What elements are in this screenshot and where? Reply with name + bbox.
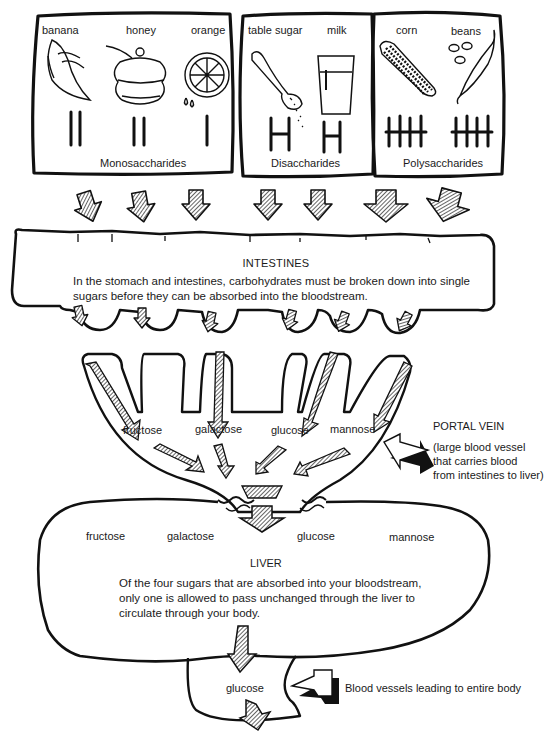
food-label-orange: orange [191, 24, 225, 37]
arrows-into-intestines [70, 185, 473, 227]
monosaccharides-box [33, 13, 233, 174]
liver-text-line-1: Of the four sugars that are absorbed int… [119, 576, 421, 591]
group-label-disaccharides: Disaccharides [271, 157, 340, 170]
liver-sugar-glucose: glucose [297, 530, 335, 543]
tally-marks [71, 112, 207, 145]
corn-icon [380, 41, 436, 96]
banana-icon [48, 40, 90, 100]
liver-sugar-fructose: fructose [86, 530, 125, 543]
outflow-pointer-arrow [292, 670, 339, 704]
liver-sugar-mannose: mannose [389, 531, 434, 544]
portal-sugar-mannose: mannose [330, 423, 375, 436]
diagram-artwork [0, 0, 552, 739]
tally-marks [386, 116, 492, 146]
tally-marks [271, 118, 340, 152]
intestines-title: INTESTINES [0, 257, 552, 269]
outflow-sugar-glucose: glucose [226, 682, 264, 695]
intestines-text-line-1: In the stomach and intestines, carbohydr… [73, 274, 470, 289]
liver-title: LIVER [250, 557, 282, 570]
food-label-corn: corn [396, 24, 417, 37]
food-label-beans: beans [451, 25, 481, 38]
portal-vein-desc-line-2: that carries blood [433, 455, 517, 468]
portal-sugar-glucose: glucose [271, 424, 309, 437]
outflow-label: Blood vessels leading to entire body [345, 682, 521, 695]
portal-sugar-galactose: galactose [195, 423, 242, 436]
arrows-portal-vein [86, 352, 412, 478]
food-label-table-sugar: table sugar [248, 24, 302, 37]
arrow-into-liver [240, 486, 284, 532]
arrows-outflow [228, 626, 270, 730]
intestines-text-line-2: sugars before they can be absorbed into … [73, 289, 368, 304]
food-label-honey: honey [126, 24, 156, 37]
group-label-polysaccharides: Polysaccharides [403, 157, 483, 170]
orange-slice-icon [185, 53, 230, 107]
sugar-spoon-icon [252, 52, 303, 127]
food-label-milk: milk [327, 24, 347, 37]
liver-text-line-3: circulate through your body. [119, 606, 260, 621]
polysaccharides-box [372, 12, 504, 176]
portal-vein-desc-line-1: (large blood vessel [433, 441, 525, 454]
milk-glass-icon [318, 56, 354, 114]
group-label-monosaccharides: Monosaccharides [100, 157, 186, 170]
food-label-banana: banana [42, 24, 79, 37]
portal-sugar-fructose: fructose [123, 424, 162, 437]
bean-pod-icon [449, 30, 495, 104]
honey-pot-icon [106, 46, 166, 104]
liver-text-line-2: only one is allowed to pass unchanged th… [119, 591, 415, 606]
portal-vein-desc-line-3: from intestines to liver) [433, 469, 544, 482]
liver-sugar-galactose: galactose [167, 530, 214, 543]
portal-vein-title: PORTAL VEIN [433, 420, 504, 433]
disaccharides-box [240, 13, 374, 176]
portal-vein-pointer-arrow [384, 434, 434, 474]
